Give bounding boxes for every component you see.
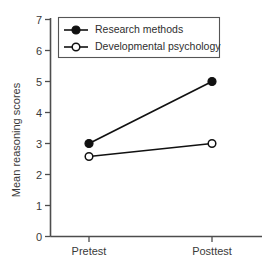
y-tick-label-4: 4: [36, 107, 42, 119]
data-point-developmental-psychology-pretest: [85, 153, 93, 161]
line-chart: 7 6 5 4 3 2 1 0 Pretest Posttest Mean re…: [0, 0, 271, 267]
series-line-developmental-psychology: [89, 144, 212, 157]
y-tick-label-3: 3: [36, 138, 42, 150]
y-tick-label-0: 0: [36, 231, 42, 243]
y-axis-title: Mean reasoning scores: [10, 82, 22, 197]
y-tick-label-6: 6: [36, 45, 42, 57]
chart-legend: Research methods Developmental psycholog…: [59, 18, 222, 58]
data-point-research-methods-posttest: [208, 78, 216, 86]
x-tick-label-pretest: Pretest: [72, 245, 107, 257]
y-tick-label-7: 7: [36, 14, 42, 26]
y-tick-label-1: 1: [36, 200, 42, 212]
legend-label-research-methods: Research methods: [95, 23, 183, 35]
data-point-research-methods-pretest: [85, 140, 93, 148]
legend-marker-developmental-psychology: [72, 43, 80, 51]
legend-label-developmental-psychology: Developmental psychology: [95, 40, 221, 52]
y-tick-label-5: 5: [36, 76, 42, 88]
legend-marker-research-methods: [72, 26, 80, 34]
x-tick-label-posttest: Posttest: [192, 245, 232, 257]
series-line-research-methods: [89, 82, 212, 144]
data-point-developmental-psychology-posttest: [208, 140, 216, 148]
y-tick-label-2: 2: [36, 169, 42, 181]
chart-figure: 7 6 5 4 3 2 1 0 Pretest Posttest Mean re…: [0, 0, 271, 267]
